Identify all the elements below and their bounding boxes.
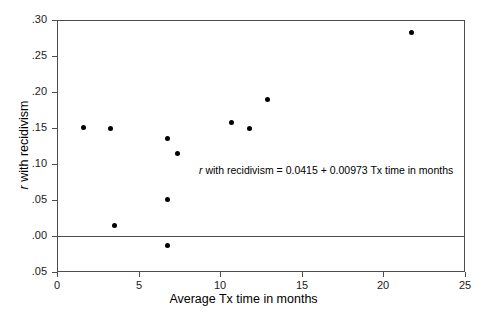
data-point xyxy=(229,120,234,125)
y-axis-tick xyxy=(52,200,57,201)
x-axis-title-text: Average Tx time in months xyxy=(169,292,317,306)
x-axis-tick xyxy=(302,272,303,277)
x-axis-tick-label: 5 xyxy=(124,280,154,291)
data-point xyxy=(165,197,170,202)
scatter-plot-figure: .30.25.20.15.10.05.00.05 0510152025 r wi… xyxy=(0,0,487,319)
x-axis-title: Average Tx time in months xyxy=(0,292,487,306)
x-axis-tick xyxy=(57,272,58,277)
y-axis-tick-label: .30 xyxy=(15,14,47,25)
data-point xyxy=(175,151,180,156)
x-axis-tick-label: 0 xyxy=(42,280,72,291)
data-point xyxy=(165,136,170,141)
x-axis-tick xyxy=(383,272,384,277)
y-axis-tick xyxy=(52,128,57,129)
y-axis-tick xyxy=(52,56,57,57)
x-axis-tick xyxy=(220,272,221,277)
zero-reference-line xyxy=(57,236,465,237)
x-axis-tick-label: 25 xyxy=(450,280,480,291)
plot-area xyxy=(57,20,465,272)
y-axis-tick-label: .05 xyxy=(15,266,47,277)
y-axis-tick xyxy=(52,164,57,165)
y-axis-tick xyxy=(52,92,57,93)
y-axis-tick xyxy=(52,20,57,21)
equation-rest: with recidivism = 0.0415 + 0.00973 Tx ti… xyxy=(203,164,454,176)
x-axis-tick xyxy=(139,272,140,277)
plot-right-edge-mask xyxy=(465,24,468,268)
data-point xyxy=(108,126,113,131)
y-axis-tick xyxy=(52,236,57,237)
x-axis-tick xyxy=(465,272,466,277)
x-axis-tick-label: 20 xyxy=(368,280,398,291)
data-point xyxy=(81,125,86,130)
x-axis-tick-label: 15 xyxy=(287,280,317,291)
x-axis-tick-label: 10 xyxy=(205,280,235,291)
y-axis-title-italic-r: r xyxy=(17,185,31,189)
regression-equation-annotation: r with recidivism = 0.0415 + 0.00973 Tx … xyxy=(199,164,453,176)
y-axis-title-rest: with recidivism xyxy=(17,101,31,186)
y-axis-title: r with recidivism xyxy=(17,45,31,245)
